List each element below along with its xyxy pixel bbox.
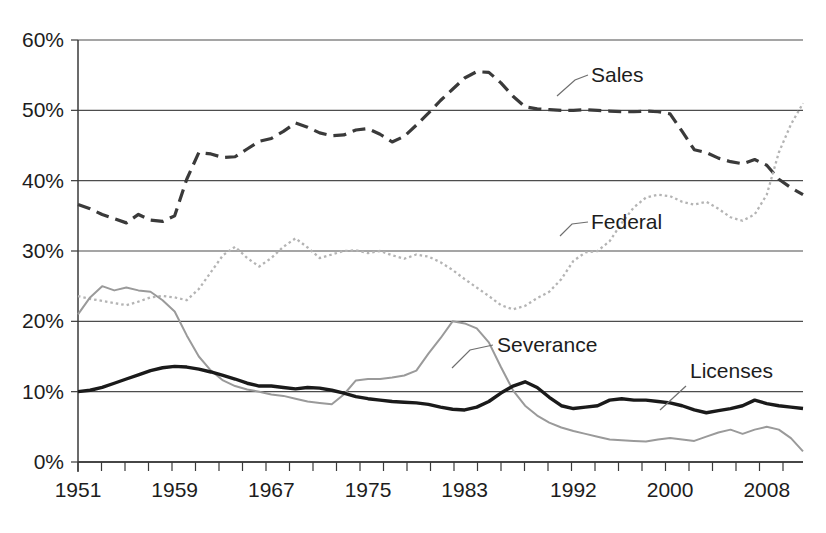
series-label-severance: Severance (497, 333, 597, 356)
y-tick-label-40: 40% (22, 169, 64, 192)
x-tick-label-1967: 1967 (248, 478, 295, 501)
x-tick-label-1992: 1992 (550, 478, 597, 501)
chart-background (0, 0, 826, 533)
x-tick-label-1959: 1959 (151, 478, 198, 501)
y-tick-label-10: 10% (22, 380, 64, 403)
x-tick-label-1975: 1975 (345, 478, 392, 501)
y-tick-label-20: 20% (22, 309, 64, 332)
x-tick-label-1983: 1983 (441, 478, 488, 501)
y-tick-label-50: 50% (22, 98, 64, 121)
x-tick-label-2000: 2000 (647, 478, 694, 501)
x-tick-label-1951: 1951 (55, 478, 102, 501)
series-label-federal: Federal (591, 210, 662, 233)
line-chart: 0%10%20%30%40%50%60% 1951195919671975198… (0, 0, 826, 533)
chart-container: 0%10%20%30%40%50%60% 1951195919671975198… (0, 0, 826, 533)
series-label-sales: Sales (591, 63, 644, 86)
y-tick-label-0: 0% (34, 450, 64, 473)
y-tick-label-30: 30% (22, 239, 64, 262)
x-tick-label-2008: 2008 (743, 478, 790, 501)
series-label-licenses: Licenses (690, 359, 773, 382)
y-tick-label-60: 60% (22, 28, 64, 51)
